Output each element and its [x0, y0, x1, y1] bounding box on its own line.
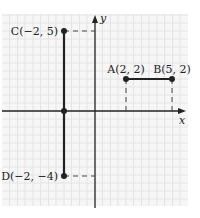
- point-cd-x-intercept: [61, 108, 67, 114]
- point-c: [61, 28, 67, 34]
- coordinate-plane: C(−2, 5) D(−2, −4) A(2, 2) B(5, 2) y x: [0, 0, 200, 218]
- label-a: A(2, 2): [106, 63, 145, 76]
- label-c: C(−2, 5): [11, 25, 58, 38]
- label-b: B(5, 2): [153, 63, 191, 76]
- point-b: [169, 76, 175, 82]
- y-axis-label: y: [99, 12, 107, 25]
- point-d: [61, 173, 67, 179]
- x-axis-label: x: [179, 114, 186, 127]
- label-d: D(−2, −4): [1, 170, 58, 183]
- point-a: [123, 76, 129, 82]
